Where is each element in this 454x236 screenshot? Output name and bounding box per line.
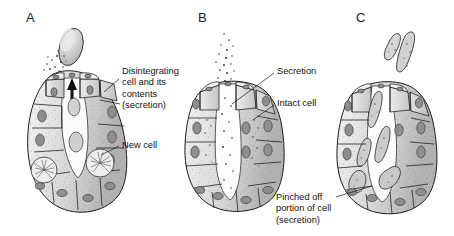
panel-letter-b: B: [198, 10, 207, 25]
secretion-label: Secretion: [277, 66, 316, 77]
mitotic-figure-right: [86, 149, 114, 177]
secretion-modes-figure: A B C Disintegrating cell and its conten…: [0, 0, 454, 236]
pinched-off-portion-label: Pinched off portion of cell (secretion): [276, 192, 331, 226]
apical-cells-a: [46, 73, 117, 101]
figure-artwork: [0, 0, 454, 236]
intact-cell-label: Intact cell: [277, 98, 316, 109]
new-cell-label: New cell: [122, 140, 157, 151]
panel-c-artwork: [336, 32, 437, 214]
degenerating-cell-a1: [68, 98, 80, 116]
panel-a-artwork: [28, 26, 127, 213]
disintegrating-cell-label: Disintegrating cell and its contents (se…: [122, 66, 179, 112]
disintegrating-cell-blob: [55, 26, 88, 69]
panel-b-artwork: [185, 33, 284, 212]
degenerating-cell-a2: [69, 132, 83, 152]
panel-letter-c: C: [356, 10, 366, 25]
panel-letter-a: A: [26, 10, 35, 25]
mitotic-figure-left: [31, 157, 57, 183]
